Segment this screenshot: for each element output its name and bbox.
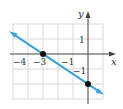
x-axis (10, 52, 116, 57)
y-axis-arrow-icon (86, 11, 91, 18)
coordinate-graph: y x 1 −4 −3 −1 −1 (0, 0, 123, 109)
x-axis-label: x (111, 56, 117, 67)
y-axis-label: y (77, 8, 84, 19)
grid (13, 24, 103, 99)
point-y-intercept (85, 81, 91, 87)
tick-label-neg3-x: −3 (33, 57, 47, 67)
graph-svg: y x 1 −4 −3 −1 −1 (0, 0, 123, 109)
tick-label-1-y: 1 (79, 35, 85, 45)
y-axis (86, 11, 91, 104)
tick-label-neg1-y: −1 (73, 66, 86, 76)
tick-label-neg4-x: −4 (13, 57, 27, 67)
